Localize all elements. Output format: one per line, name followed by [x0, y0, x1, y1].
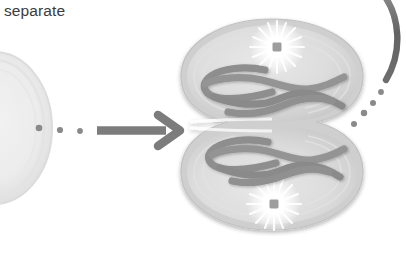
next-stage-arc [383, 0, 397, 80]
cell-division-illustration [0, 0, 406, 258]
transition-dot [361, 110, 367, 116]
transition-dot [77, 128, 83, 134]
transition-dot [378, 89, 384, 95]
transition-dot [36, 125, 43, 132]
label-separate: separate [4, 1, 65, 20]
previous-stage-cell [0, 52, 52, 204]
transition-dot [351, 121, 357, 127]
diagram-canvas: separate [0, 0, 406, 258]
transition-dot [370, 100, 376, 106]
centriole [270, 200, 279, 209]
process-arrow [97, 115, 180, 146]
centriole [273, 43, 282, 52]
transition-dot [57, 127, 63, 133]
dividing-cell [181, 19, 363, 231]
